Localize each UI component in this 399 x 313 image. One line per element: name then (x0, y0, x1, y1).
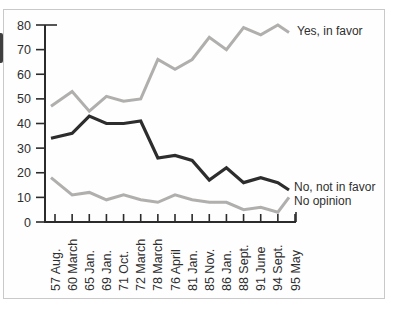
x-tick-label: 91 June (254, 246, 268, 291)
x-tick-label: 88 Sept. (237, 244, 251, 291)
x-tick-label: 94 Sept. (271, 244, 285, 291)
x-tick-label: 71 Oct. (117, 251, 131, 291)
series-label-no-not-in-favor: No, not in favor (294, 180, 375, 194)
x-tick-label: 86 Jan. (220, 250, 234, 291)
series-label-yes-in-favor: Yes, in favor (297, 24, 363, 38)
x-tick-label: 81 Jan. (186, 250, 200, 291)
series-line-no-opinion (51, 178, 289, 213)
x-tick-label: 65 Jan. (83, 250, 97, 291)
x-tick-label: 60 March (66, 239, 80, 291)
y-tick-label: 40 (17, 117, 31, 131)
y-tick-label: 80 (17, 19, 31, 33)
poll-line-chart: 0102030405060708057 Aug.60 March65 Jan.6… (0, 0, 399, 313)
y-tick-label: 20 (17, 166, 31, 180)
series-label-no-opinion: No opinion (294, 194, 351, 208)
x-tick-label: 95 May (289, 249, 303, 291)
x-tick-label: 57 Aug. (49, 249, 63, 291)
x-tick-label: 72 March (134, 239, 148, 291)
y-tick-label: 30 (17, 142, 31, 156)
x-tick-label: 78 March (151, 239, 165, 291)
x-tick-label: 69 Jan. (100, 250, 114, 291)
y-tick-label: 0 (24, 216, 31, 230)
y-tick-label: 50 (17, 92, 31, 106)
x-tick-label: 85 Nov. (203, 249, 217, 291)
y-tick-label: 10 (17, 191, 31, 205)
series-line-no-not-in-favor (51, 116, 289, 190)
x-tick-label: 76 April (169, 249, 183, 291)
poll-chart-figure: 0102030405060708057 Aug.60 March65 Jan.6… (0, 0, 399, 313)
y-tick-label: 60 (17, 68, 31, 82)
series-line-yes-in-favor (51, 25, 289, 111)
y-tick-label: 70 (17, 43, 31, 57)
